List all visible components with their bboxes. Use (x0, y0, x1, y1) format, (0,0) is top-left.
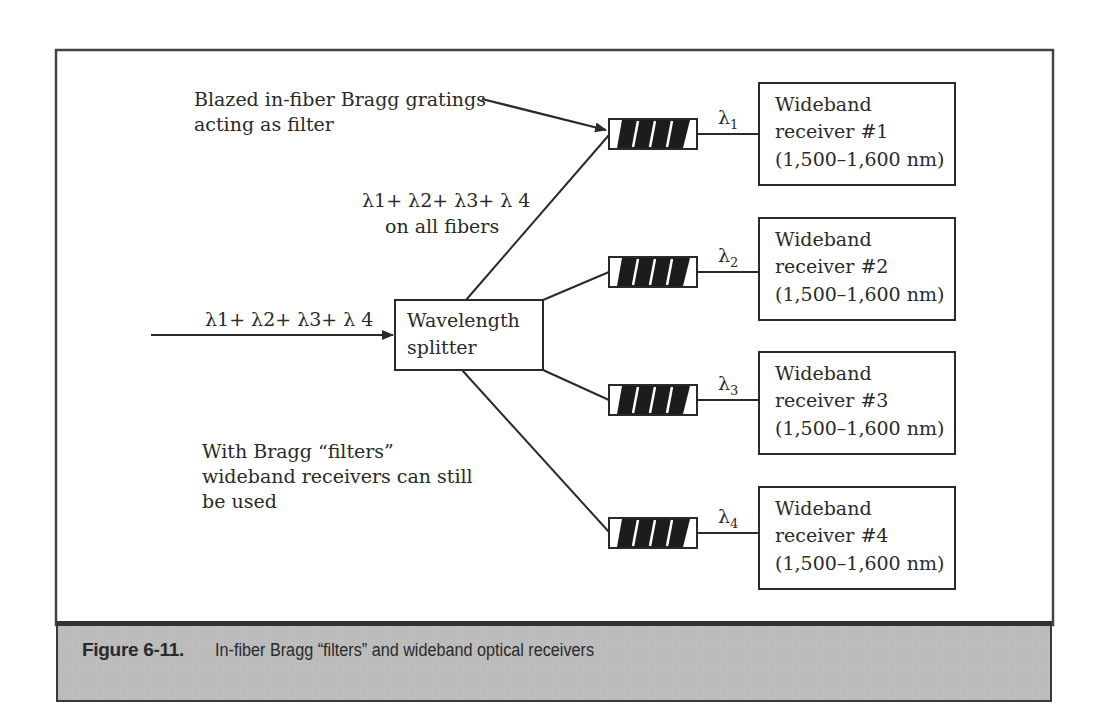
bragg-grating-filter-icon (609, 119, 697, 149)
input-sum-label: λ1+ λ2+ λ3+ λ 4 (205, 308, 373, 330)
channel-1: λ1 Wideband receiver #1 (1,500–1,600 nm) (609, 83, 955, 185)
bragg-grating-filter-icon (609, 257, 697, 287)
receiver-4-line2: receiver #4 (775, 524, 888, 546)
channel-3: λ3 Wideband receiver #3 (1,500–1,600 nm) (609, 352, 955, 454)
all-fibers-label: on all fibers (385, 215, 499, 237)
figure-caption-bar: Figure 6-11. In-fiber Bragg “filters” an… (56, 621, 1052, 702)
receiver-1-line3: (1,500–1,600 nm) (775, 148, 944, 170)
receiver-3-line1: Wideband (775, 362, 872, 384)
receiver-1-line1: Wideband (775, 93, 872, 115)
bragg-grating-filter-icon (609, 385, 697, 415)
figure-caption-text: In-fiber Bragg “filters” and wideband op… (215, 640, 594, 661)
receiver-1-line2: receiver #1 (775, 120, 888, 142)
gratings-pointer-arrow (482, 99, 606, 130)
splitter-label-line2: splitter (407, 336, 478, 358)
figure-number: Figure 6-11. (82, 639, 184, 661)
receiver-4-line3: (1,500–1,600 nm) (775, 552, 944, 574)
receiver-4-line1: Wideband (775, 497, 872, 519)
receiver-2-line2: receiver #2 (775, 255, 888, 277)
splitter-label-line1: Wavelength (407, 309, 520, 331)
note-line2: wideband receivers can still (202, 465, 473, 487)
note-line3: be used (202, 490, 277, 512)
receiver-2-line3: (1,500–1,600 nm) (775, 283, 944, 305)
lambda-3-label: λ3 (718, 372, 738, 398)
gratings-label-line2: acting as filter (194, 113, 335, 135)
lambda-4-label: λ4 (718, 505, 738, 531)
note-line1: With Bragg “filters” (202, 440, 394, 462)
figure-diagram: Blazed in-fiber Bragg gratings acting as… (0, 0, 1105, 715)
channel-4: λ4 Wideband receiver #4 (1,500–1,600 nm) (609, 487, 955, 589)
receiver-3-line2: receiver #3 (775, 389, 888, 411)
wavelength-splitter: Wavelength splitter (395, 300, 543, 370)
receiver-2-line1: Wideband (775, 228, 872, 250)
lambda-2-label: λ2 (718, 244, 738, 270)
bragg-grating-filter-icon (609, 518, 697, 548)
receiver-3-line3: (1,500–1,600 nm) (775, 417, 944, 439)
all-fibers-sum: λ1+ λ2+ λ3+ λ 4 (362, 189, 530, 211)
channel-2: λ2 Wideband receiver #2 (1,500–1,600 nm) (609, 218, 955, 320)
gratings-label-line1: Blazed in-fiber Bragg gratings (194, 88, 486, 110)
lambda-1-label: λ1 (718, 106, 738, 132)
